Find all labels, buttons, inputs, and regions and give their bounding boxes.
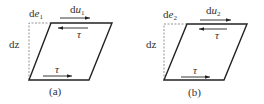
caption-b: (b) [188,86,201,99]
tau-bottom-label-a: τ [55,63,60,75]
de-label-b: de2 [163,8,177,22]
de-label-a: de1 [29,7,43,21]
shear-deformation-diagram: de1 du1 τ τ dz (a) de2 du2 τ τ dz (b) [0,0,264,104]
du-label-a: du1 [70,3,85,17]
du-label-b: du2 [206,4,221,18]
tau-bottom-label-b: τ [193,64,198,76]
panel-b: de2 du2 τ τ dz (b) [146,4,247,99]
panel-a: de1 du1 τ τ dz (a) [9,3,112,98]
sheared-element-a [29,23,112,80]
dz-label-a: dz [9,38,20,50]
dz-label-b: dz [146,38,157,50]
tau-top-label-a: τ [77,28,82,40]
sheared-element-b [164,24,247,80]
caption-a: (a) [49,85,62,98]
tau-top-label-b: τ [215,29,220,41]
